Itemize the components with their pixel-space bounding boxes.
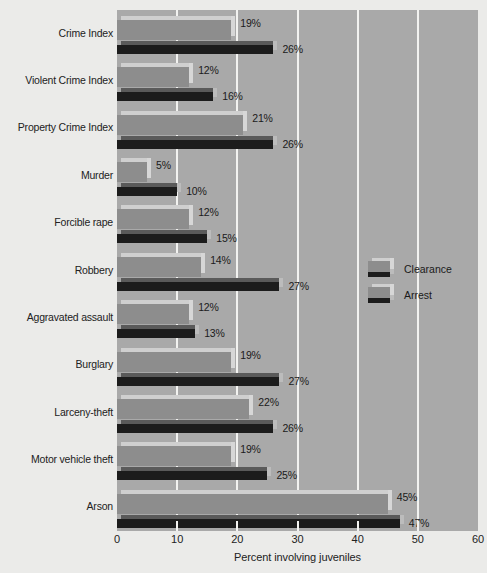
legend-label: Clearance — [404, 263, 452, 275]
bar-side-face — [231, 442, 235, 462]
bar-front-face — [117, 424, 273, 433]
bar-value-label-arrest: 25% — [276, 469, 296, 481]
bar-value-label-clearance: 21% — [252, 112, 272, 124]
bar-side-face — [388, 490, 392, 510]
bar-value-label-arrest: 15% — [216, 232, 236, 244]
category-label: Larceny-theft — [1, 406, 113, 418]
category-label: Forcible rape — [1, 216, 113, 228]
bar-arrest — [117, 230, 207, 239]
x-tick-label: 10 — [171, 533, 183, 545]
bar-value-label-clearance: 45% — [397, 491, 417, 503]
bar-clearance — [117, 253, 201, 273]
bar-side-face — [249, 395, 253, 415]
bar-front-face — [117, 471, 267, 480]
bar-value-label-clearance: 22% — [258, 396, 278, 408]
bar-side-face — [177, 183, 181, 192]
bar-front-face — [117, 115, 243, 135]
legend-label: Arrest — [404, 289, 432, 301]
category-label: Violent Crime Index — [1, 74, 113, 86]
bar-value-label-clearance: 12% — [198, 64, 218, 76]
x-axis: Percent involving juveniles 010203040506… — [117, 531, 478, 573]
category-label: Murder — [1, 169, 113, 181]
category-label: Robbery — [1, 264, 113, 276]
bar-arrest — [117, 41, 273, 50]
bar-arrest — [117, 325, 195, 334]
bar-side-face — [231, 16, 235, 36]
category-label: Arson — [1, 500, 113, 512]
bar-value-label-clearance: 19% — [240, 349, 260, 361]
bar-side-face — [195, 325, 199, 334]
bar-value-label-clearance: 14% — [210, 254, 230, 266]
category-label: Burglary — [1, 358, 113, 370]
bar-value-label-clearance: 19% — [240, 17, 260, 29]
bar-front-face — [117, 20, 231, 40]
bar-side-face — [273, 41, 277, 50]
bar-front-face — [117, 257, 201, 277]
bar-value-label-arrest: 27% — [288, 375, 308, 387]
bar-side-face — [231, 348, 235, 368]
bar-side-face — [207, 230, 211, 239]
bar-value-label-arrest: 13% — [204, 327, 224, 339]
bar-clearance — [117, 111, 243, 131]
bar-side-face — [273, 136, 277, 145]
bar-front-face — [117, 45, 273, 54]
bar-side-face — [213, 88, 217, 97]
bar-value-label-clearance: 12% — [198, 206, 218, 218]
bar-front-face — [117, 329, 195, 338]
bar-arrest — [117, 136, 273, 145]
gridline-30 — [297, 10, 299, 531]
gridline-20 — [236, 10, 238, 531]
bar-value-label-clearance: 5% — [156, 159, 171, 171]
bar-front-face — [117, 399, 249, 419]
bar-front-face — [117, 234, 207, 243]
bar-front-face — [117, 162, 147, 182]
bar-clearance — [117, 442, 231, 462]
bar-side-face — [243, 111, 247, 131]
bar-clearance — [117, 158, 147, 178]
bar-clearance — [117, 205, 189, 225]
x-tick-mark — [357, 521, 359, 531]
bar-arrest — [117, 278, 279, 287]
x-tick-label: 50 — [412, 533, 424, 545]
bar-front-face — [117, 377, 279, 386]
bar-value-label-arrest: 27% — [288, 280, 308, 292]
x-tick-label: 0 — [114, 533, 120, 545]
chart-legend: ClearanceArrest — [368, 258, 478, 308]
bar-clearance — [117, 16, 231, 36]
bar-side-face — [147, 158, 151, 178]
bar-arrest — [117, 420, 273, 429]
bar-side-face — [273, 420, 277, 429]
bar-clearance — [117, 300, 189, 320]
bar-front-face — [117, 282, 279, 291]
category-label: Aggravated assault — [1, 311, 113, 323]
bar-clearance — [117, 490, 388, 510]
bar-front-face — [117, 352, 231, 372]
legend-swatch-icon — [368, 284, 394, 302]
bar-value-label-arrest: 26% — [282, 138, 302, 150]
bar-front-face — [117, 92, 213, 101]
bar-value-label-arrest: 10% — [186, 185, 206, 197]
bar-arrest — [117, 373, 279, 382]
bar-front-face — [117, 209, 189, 229]
y-axis-labels: Crime IndexViolent Crime IndexProperty C… — [0, 10, 113, 531]
bar-arrest — [117, 88, 213, 97]
bar-side-face — [189, 300, 193, 320]
legend-swatch-icon — [368, 258, 394, 276]
bar-arrest — [117, 467, 267, 476]
bar-front-face — [117, 67, 189, 87]
x-tick-mark — [236, 521, 238, 531]
x-tick-label: 20 — [231, 533, 243, 545]
category-label: Crime Index — [1, 27, 113, 39]
gridline-40 — [357, 10, 359, 531]
bar-value-label-arrest: 47% — [409, 517, 429, 529]
bar-value-label-clearance: 19% — [240, 443, 260, 455]
x-axis-title: Percent involving juveniles — [117, 551, 478, 563]
bar-arrest — [117, 183, 177, 192]
bar-side-face — [267, 467, 271, 476]
bar-value-label-arrest: 26% — [282, 43, 302, 55]
bar-clearance — [117, 63, 189, 83]
x-tick-label: 60 — [472, 533, 484, 545]
bar-value-label-arrest: 26% — [282, 422, 302, 434]
bar-side-face — [201, 253, 205, 273]
bar-front-face — [117, 304, 189, 324]
